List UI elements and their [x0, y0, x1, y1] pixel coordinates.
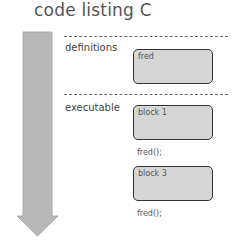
- executable-label: executable: [65, 102, 120, 113]
- block-label: block 1: [138, 108, 167, 117]
- code-block-3: block 3: [133, 166, 213, 201]
- down-arrow-icon: [0, 0, 60, 242]
- section-divider: [64, 36, 228, 37]
- code-block-fred: fred: [133, 49, 213, 84]
- function-call: fred();: [137, 148, 162, 157]
- section-divider: [64, 94, 228, 95]
- block-label: fred: [138, 52, 154, 61]
- block-label: block 3: [138, 169, 167, 178]
- definitions-label: definitions: [65, 42, 117, 53]
- function-call: fred();: [137, 209, 162, 218]
- code-block-1: block 1: [133, 105, 213, 140]
